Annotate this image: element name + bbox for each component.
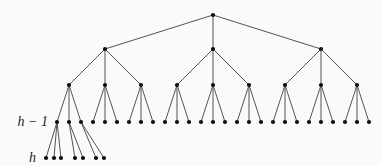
- tree-edge: [57, 122, 61, 158]
- tree-node: [103, 83, 107, 87]
- tree-edge: [285, 49, 321, 85]
- tree-node: [163, 120, 167, 124]
- tree-node: [331, 120, 335, 124]
- tree-node: [247, 120, 251, 124]
- tree-edge: [93, 85, 105, 122]
- tree-node: [139, 83, 143, 87]
- tree-node: [355, 83, 359, 87]
- tree-node: [103, 47, 107, 51]
- tree-edge: [237, 85, 249, 122]
- tree-node: [102, 156, 106, 160]
- tree-edge: [105, 49, 141, 85]
- tree-edge: [213, 49, 249, 85]
- figure-canvas: h − 1 h: [0, 0, 381, 166]
- level-label-h-minus-1: h − 1: [18, 114, 48, 129]
- tree-node: [127, 120, 131, 124]
- tree-edge: [57, 85, 69, 122]
- tree-node: [235, 120, 239, 124]
- tree-edge: [69, 85, 81, 122]
- tree-node: [115, 120, 119, 124]
- tree-edge: [69, 49, 105, 85]
- tree-edge: [177, 49, 213, 85]
- tree-edge: [69, 122, 83, 158]
- level-label-h: h: [29, 150, 36, 165]
- tree-edge: [345, 85, 357, 122]
- tree-edge: [321, 85, 333, 122]
- tree-edge: [81, 122, 104, 158]
- tree-node: [175, 120, 179, 124]
- tree-edge: [309, 85, 321, 122]
- tree-node: [91, 120, 95, 124]
- tree-edge: [213, 85, 225, 122]
- tree-node: [271, 120, 275, 124]
- tree-node: [139, 120, 143, 124]
- tree-edge: [165, 85, 177, 122]
- tree-edge: [321, 49, 357, 85]
- tree-node: [55, 120, 59, 124]
- tree-nodes: [44, 13, 371, 160]
- tree-node: [211, 83, 215, 87]
- tree-edge: [105, 85, 117, 122]
- tree-edge: [69, 122, 75, 158]
- tree-node: [223, 120, 227, 124]
- tree-node: [103, 120, 107, 124]
- tree-node: [211, 13, 215, 17]
- tree-node: [307, 120, 311, 124]
- tree-node: [211, 47, 215, 51]
- tree-edge: [273, 85, 285, 122]
- tree-edge: [177, 85, 189, 122]
- tree-node: [199, 120, 203, 124]
- tree-edge: [141, 85, 153, 122]
- tree-node: [73, 156, 77, 160]
- tree-node: [211, 120, 215, 124]
- tree-edge: [285, 85, 297, 122]
- tree-edge: [249, 85, 261, 122]
- tree-node: [343, 120, 347, 124]
- tree-node: [283, 120, 287, 124]
- tree-node: [59, 156, 63, 160]
- tree-node: [79, 120, 83, 124]
- tree-node: [259, 120, 263, 124]
- tree-node: [52, 156, 56, 160]
- tree-node: [319, 47, 323, 51]
- tree-node: [187, 120, 191, 124]
- tree-node: [151, 120, 155, 124]
- tree-node: [283, 83, 287, 87]
- tree-node: [67, 120, 71, 124]
- tree-diagram: h − 1 h: [0, 0, 381, 166]
- tree-node: [247, 83, 251, 87]
- tree-node: [67, 83, 71, 87]
- tree-edge: [105, 15, 213, 49]
- tree-node: [355, 120, 359, 124]
- tree-edge: [201, 85, 213, 122]
- tree-node: [319, 83, 323, 87]
- tree-node: [295, 120, 299, 124]
- tree-node: [319, 120, 323, 124]
- tree-edge: [129, 85, 141, 122]
- tree-node: [44, 156, 48, 160]
- tree-node: [81, 156, 85, 160]
- tree-edge: [357, 85, 369, 122]
- tree-node: [94, 156, 98, 160]
- tree-node: [367, 120, 371, 124]
- tree-node: [175, 83, 179, 87]
- tree-edge: [213, 15, 321, 49]
- tree-edge: [81, 122, 96, 158]
